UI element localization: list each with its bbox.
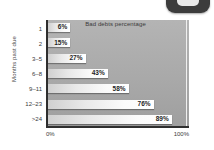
bar[interactable]: 43% xyxy=(48,69,108,78)
bar[interactable]: 15% xyxy=(48,38,70,47)
bar-value-label: 43% xyxy=(92,70,108,77)
bar-series: 6% 15% 27% 43% 58% 76% xyxy=(48,20,187,127)
y-tick-label: 1 xyxy=(14,21,44,36)
x-tick-label-min: 0% xyxy=(46,131,55,137)
bar-value-label: 76% xyxy=(138,101,154,108)
bar-value-label: 27% xyxy=(70,55,86,62)
x-tick-label-max: 100% xyxy=(174,131,189,137)
y-tick-label: >24 xyxy=(14,112,44,127)
bar-value-label: 15% xyxy=(54,40,70,47)
y-tick-label: 2 xyxy=(14,36,44,51)
bar[interactable]: 27% xyxy=(48,54,86,63)
bar-row: 43% xyxy=(48,66,187,81)
y-axis-tick-labels: 1 2 3–5 6–8 9–11 12–23 >24 xyxy=(14,21,44,127)
y-tick-label: 3–5 xyxy=(14,51,44,66)
chart-title: Bad debts percentage xyxy=(46,21,185,27)
y-tick-label: 6–8 xyxy=(14,66,44,81)
bar-row: 27% xyxy=(48,51,187,66)
bar-row: 89% xyxy=(48,112,187,127)
bar-row: 76% xyxy=(48,96,187,111)
bar[interactable]: 89% xyxy=(48,115,172,124)
bar-value-label: 89% xyxy=(156,116,172,123)
bar[interactable]: 58% xyxy=(48,84,129,93)
bar-value-label: 58% xyxy=(113,86,129,93)
bar[interactable]: 76% xyxy=(48,100,154,109)
y-tick-label: 12–23 xyxy=(14,97,44,112)
bar-row: 15% xyxy=(48,35,187,50)
bad-debts-bar-chart: Months past due 1 2 3–5 6–8 9–11 12–23 >… xyxy=(0,0,214,150)
bar-row: 58% xyxy=(48,81,187,96)
y-tick-label: 9–11 xyxy=(14,82,44,97)
x-axis-tick-labels: 0% 100% xyxy=(46,131,189,141)
